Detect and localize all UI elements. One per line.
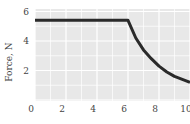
y-tick-labels: 246: [23, 7, 29, 76]
x-tick-label: 4: [90, 104, 96, 114]
x-tick-label: 10: [180, 104, 190, 114]
x-tick-label: 6: [121, 104, 127, 114]
y-axis-title: Force, N: [4, 42, 14, 82]
x-tick-labels: 0246810: [28, 104, 190, 114]
x-tick-label: 8: [152, 104, 158, 114]
x-tick-label: 2: [59, 104, 65, 114]
x-tick-label: 0: [28, 104, 34, 114]
y-tick-label: 2: [23, 66, 29, 76]
force-chart: 246 0246810 Force, N: [0, 0, 190, 124]
y-tick-label: 4: [23, 36, 29, 46]
y-tick-label: 6: [23, 7, 29, 17]
